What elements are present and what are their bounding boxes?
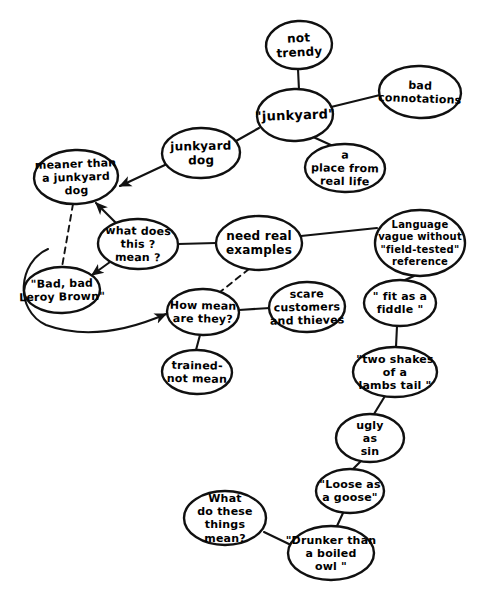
edge-junkyard-dog--meaner-than [120,164,167,186]
edge-meaner-than--leroy-brown [62,204,73,267]
edge-junkyard--not-trendy [298,69,299,90]
edge-loose-as-a-goose--drunker-than-owl [337,513,343,526]
node-language-vague-without-field-tested-reference[interactable]: Languagevague without"field-tested"refer… [375,210,465,276]
node-ugly-as-sin[interactable]: uglyassin [336,414,404,462]
edge-junkyard--junkyard-dog [236,128,259,141]
node-loose-as-a-goose[interactable]: "Loose asa goose" [316,469,384,513]
node-label-fit-as-a-fiddle: " fit as afiddle " [373,290,427,316]
node-junkyard[interactable]: "junkyard" [254,88,336,143]
edge-ugly-as-sin--loose-as-a-goose [353,461,361,469]
node-label-junkyard: "junkyard" [255,106,336,124]
node-drunker-than-a-boiled-owl[interactable]: "Drunker thana boiledowl " [286,526,377,580]
edge-need-real-examples--language-vague [301,228,377,236]
node-a-place-from-real-life[interactable]: aplace fromreal life [305,143,386,192]
edge-what-does-this-mean--need-real-examples [178,243,216,244]
node-not-trendy[interactable]: nottrendy [265,19,333,70]
edge-fit-as-a-fiddle--two-shakes [396,326,397,347]
node-label-need-real-examples: need realexamples [226,229,292,257]
node-label-how-mean-are-they: How meanare they? [170,299,237,326]
edge-what-does-this-mean--leroy-brown [92,262,110,275]
nodes-layer: nottrendybadconnotations"junkyard"aplace… [19,19,465,580]
node-label-loose-as-a-goose: "Loose asa goose" [319,478,381,504]
node-label-trained-not-mean: trained-not mean [167,359,228,386]
concept-map-graphic: nottrendybadconnotations"junkyard"aplace… [0,0,482,594]
node-bad-connotations[interactable]: badconnotations [377,65,462,120]
node-junkyard-dog[interactable]: junkyarddog [162,127,241,178]
node-bad-bad-leroy-brown[interactable]: "Bad, badLeroy Brown" [19,266,106,313]
edge-how-mean-are-they--scare-customers [239,308,270,310]
node-meaner-than-a-junkyard-dog[interactable]: meaner thana junkyarddog [33,149,119,206]
edge-need-real-examples--how-mean-are-they [220,269,249,292]
node-how-mean-are-they[interactable]: How meanare they? [167,288,240,335]
node-label-bad-bad-leroy-brown: "Bad, badLeroy Brown" [19,277,105,305]
node-fit-as-a-fiddle[interactable]: " fit as afiddle " [364,280,436,326]
node-two-shakes-of-a-lambs-tail[interactable]: "two shakesof alambs tail " [353,347,437,397]
node-trained-not-mean[interactable]: trained-not mean [162,349,233,394]
node-scare-customers-and-thieves[interactable]: scarecustomersand thieves [269,281,346,332]
edge-two-shakes--ugly-as-sin [374,396,385,414]
edge-junkyard--bad-connotations [331,95,380,107]
edge-what-does-this-mean--meaner-than [96,203,117,224]
concept-map-canvas: nottrendybadconnotations"junkyard"aplace… [0,0,482,594]
node-what-do-these-things-mean[interactable]: Whatdo thesethingsmean? [184,491,266,545]
node-what-does-this-mean[interactable]: what doesthis ?mean ? [98,218,179,269]
node-need-real-examples[interactable]: need realexamples [216,216,302,270]
edge-how-mean-are-they--trained-not-mean [196,335,200,350]
